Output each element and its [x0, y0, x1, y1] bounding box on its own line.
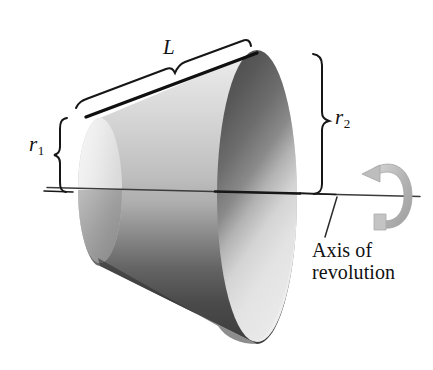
- slant-height-label: L: [163, 36, 175, 60]
- brace-large-radius: [300, 54, 336, 195]
- axis-label-line-2: revolution: [312, 261, 395, 283]
- frustum-of-revolution-figure: L r1 r2 Axis of revolution: [0, 0, 433, 370]
- frustum-diagram-svg: [0, 0, 433, 370]
- frustum-solid: [78, 50, 297, 344]
- small-radius-label: r1: [29, 133, 44, 158]
- small-radius-subscript: 1: [37, 143, 44, 158]
- axis-label-line-1: Axis of: [312, 239, 372, 261]
- axis-leader-line: [325, 197, 337, 237]
- axis-of-revolution-label: Axis of revolution: [312, 239, 395, 284]
- brace-small-radius: [44, 118, 73, 192]
- large-radius-label: r2: [335, 106, 350, 131]
- rotation-arrow-icon: [362, 164, 412, 230]
- large-radius-subscript: 2: [343, 116, 350, 131]
